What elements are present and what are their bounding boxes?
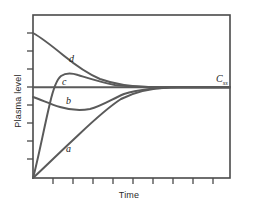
- curve-label-b: b: [66, 95, 71, 106]
- css-subscript-text: ss: [223, 79, 228, 86]
- x-axis-ticks: [53, 178, 213, 184]
- curve-label-css: Css: [216, 73, 228, 86]
- curve-label-d: d: [69, 53, 74, 64]
- x-axis-label: Time: [0, 190, 258, 200]
- plasma-level-chart-figure: Plasma level Time a b c d Css: [0, 0, 258, 206]
- curve-a: [33, 87, 230, 178]
- curve-label-c: c: [62, 76, 66, 87]
- css-base-text: C: [216, 73, 223, 84]
- curve-c: [33, 73, 230, 178]
- plot-frame-box: [33, 15, 230, 178]
- chart-plot-area: [0, 0, 258, 206]
- y-axis-ticks: [27, 33, 33, 159]
- curve-label-a: a: [66, 143, 71, 154]
- y-axis-label: Plasma level: [13, 61, 23, 141]
- curve-b: [33, 87, 230, 110]
